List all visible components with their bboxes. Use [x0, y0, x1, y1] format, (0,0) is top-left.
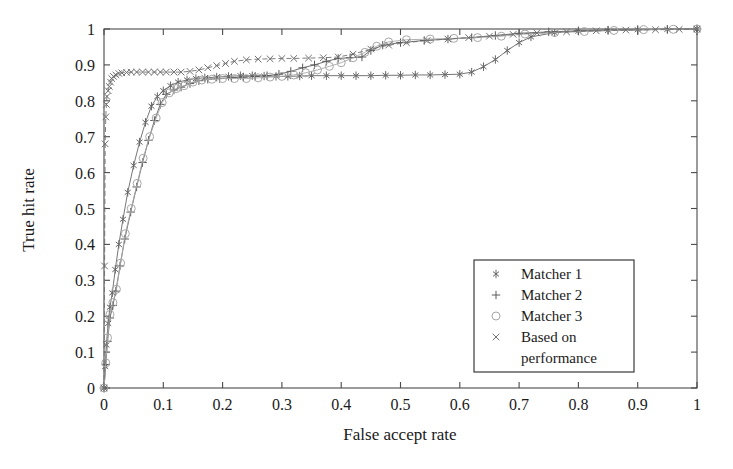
y-tick-label: 0.3 [75, 272, 95, 289]
x-tick-label: 0 [100, 396, 108, 413]
x-tick-label: 0.2 [213, 396, 233, 413]
y-tick-label: 0.7 [75, 129, 95, 146]
x-axis-label: False accept rate [343, 425, 456, 444]
y-tick-label: 0.1 [75, 344, 95, 361]
x-axis-tick-labels: 00.10.20.30.40.50.60.70.80.91 [100, 396, 701, 413]
x-tick-label: 0.5 [391, 396, 411, 413]
y-axis-tick-labels: 00.10.20.30.40.50.60.70.80.91 [75, 21, 95, 397]
roc-chart-svg: 00.10.20.30.40.50.60.70.80.91 00.10.20.3… [0, 0, 733, 469]
x-tick-label: 0.9 [628, 396, 648, 413]
legend-label: Matcher 3 [521, 308, 582, 324]
y-tick-label: 0.8 [75, 93, 95, 110]
y-tick-label: 0 [87, 380, 95, 397]
x-tick-label: 0.3 [272, 396, 292, 413]
legend-label: Matcher 2 [521, 287, 582, 303]
legend-label: Based on [521, 329, 577, 345]
y-tick-label: 0.6 [75, 165, 95, 182]
x-tick-label: 0.6 [450, 396, 470, 413]
x-tick-label: 0.8 [568, 396, 588, 413]
x-tick-label: 0.1 [153, 396, 173, 413]
y-tick-label: 1 [87, 21, 95, 38]
x-tick-label: 1 [693, 396, 701, 413]
y-tick-label: 0.9 [75, 57, 95, 74]
y-tick-label: 0.4 [75, 236, 95, 253]
x-tick-label: 0.7 [509, 396, 529, 413]
legend-label: performance [521, 350, 597, 366]
y-tick-label: 0.5 [75, 201, 95, 218]
y-tick-label: 0.2 [75, 308, 95, 325]
y-axis-label: True hit rate [19, 168, 38, 251]
legend: Matcher 1Matcher 2Matcher 3Based onperfo… [474, 260, 634, 372]
legend-label: Matcher 1 [521, 266, 582, 282]
roc-figure: 00.10.20.30.40.50.60.70.80.91 00.10.20.3… [0, 0, 733, 469]
x-tick-label: 0.4 [331, 396, 351, 413]
